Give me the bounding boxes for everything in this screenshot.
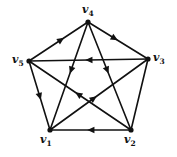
vertex-label-subscript-v1: 1	[46, 139, 51, 148]
graph-vertex-v4	[85, 19, 90, 24]
arrowhead-v4-v1	[69, 66, 75, 74]
arrowhead-v5-v1	[36, 92, 42, 100]
vertex-label-subscript-v2: 2	[130, 139, 135, 148]
graph-vertex-v5	[26, 58, 31, 63]
graph-vertex-v2	[128, 127, 133, 132]
arrowhead-v2-v1	[87, 127, 94, 134]
arrowhead-v3-v5	[85, 57, 92, 64]
vertex-label-v4: v4	[82, 4, 94, 18]
edge-layer	[29, 22, 148, 130]
graph-edge-v4-v3	[88, 22, 148, 59]
arrowhead-v2-v5	[75, 92, 83, 99]
graph-canvas	[0, 0, 177, 157]
vertex-label-v1: v1	[40, 134, 52, 148]
graph-edge-v4-v1	[50, 22, 88, 130]
vertex-label-subscript-v3: 3	[159, 57, 164, 66]
graph-vertex-v3	[145, 56, 150, 61]
arrowhead-v5-v4	[56, 38, 64, 45]
graph-vertex-v1	[47, 127, 52, 132]
vertex-label-subscript-v5: 5	[18, 59, 23, 68]
vertex-label-v5: v5	[12, 54, 24, 68]
vertex-label-v3: v3	[153, 52, 165, 66]
graph-figure: v1v2v3v4v5	[0, 0, 177, 157]
vertex-label-v2: v2	[124, 134, 136, 148]
vertex-label-subscript-v4: 4	[88, 9, 93, 18]
